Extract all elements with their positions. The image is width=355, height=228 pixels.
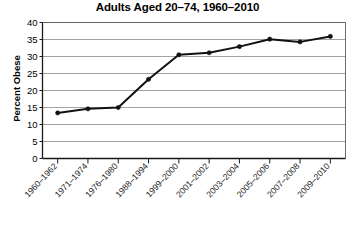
y-tick-label: 35 — [27, 34, 38, 45]
data-point-1971–1974 — [86, 107, 90, 111]
y-tick-label: 25 — [27, 68, 38, 79]
x-axis-labels: 1960–19621971–19741976–19801988–19941999… — [22, 161, 332, 199]
plot-area: 0510152025303540 1960–19621971–19741976–… — [0, 0, 355, 228]
data-point-2009–2010 — [328, 34, 332, 38]
y-tick-label: 0 — [32, 153, 37, 164]
obesity-trend-chart: Adults Aged 20–74, 1960–2010 Percent Obe… — [0, 0, 355, 228]
x-tick-label: 2009–2010 — [295, 161, 332, 199]
y-axis-ticks: 0510152025303540 — [27, 17, 43, 164]
data-point-2001–2002 — [207, 51, 211, 55]
data-point-1960–1962 — [56, 111, 60, 115]
y-tick-label: 20 — [27, 85, 38, 96]
data-series-line — [58, 36, 331, 113]
data-point-2005–2006 — [268, 37, 272, 41]
data-point-1988–1994 — [146, 77, 150, 81]
x-axis-ticks — [58, 159, 331, 164]
y-tick-label: 5 — [32, 136, 37, 147]
data-point-2003–2004 — [237, 45, 241, 49]
y-tick-label: 15 — [27, 102, 38, 113]
data-point-1976–1980 — [116, 105, 120, 109]
data-point-1999–2000 — [177, 53, 181, 57]
y-tick-label: 10 — [27, 119, 38, 130]
data-point-2007–2008 — [298, 40, 302, 44]
y-tick-label: 40 — [27, 17, 38, 28]
y-tick-label: 30 — [27, 51, 38, 62]
data-point-markers — [56, 34, 333, 115]
